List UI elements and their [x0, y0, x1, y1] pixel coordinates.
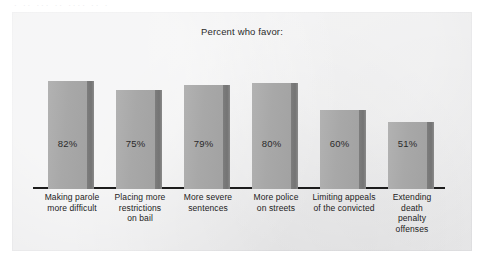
bar-shadow-edge — [427, 122, 434, 189]
bar-value-label: 51% — [388, 138, 427, 149]
bar[interactable]: 80% — [252, 83, 298, 189]
bar-value-label: 60% — [320, 138, 359, 149]
bar[interactable]: 75% — [116, 90, 162, 189]
category-label-line: more difficult — [36, 203, 108, 214]
bar-shadow-edge — [359, 110, 366, 189]
plot-area: 82%Making parolemore difficult75%Placing… — [12, 12, 472, 251]
chart-panel: Percent who favor: 82%Making parolemore … — [12, 12, 472, 251]
category-label: More policeon streets — [240, 192, 312, 213]
baseline-axis — [33, 187, 445, 189]
category-label-line: Extending — [376, 192, 448, 203]
category-label-line: Placing more — [104, 192, 176, 203]
bar-shadow-edge — [223, 85, 230, 189]
bar-face — [48, 81, 87, 189]
bar-shadow-edge — [87, 81, 94, 189]
bar[interactable]: 82% — [48, 81, 94, 189]
category-label-line: Limiting appeals — [308, 192, 380, 203]
category-label-line: More severe — [172, 192, 244, 203]
bar-face — [388, 122, 427, 189]
category-label: Extendingdeathpenaltyoffenses — [376, 192, 448, 234]
bar-value-label: 79% — [184, 138, 223, 149]
bar-face — [184, 85, 223, 189]
bar-face — [252, 83, 291, 189]
bar-shadow-edge — [291, 83, 298, 189]
category-label-line: penalty — [376, 213, 448, 224]
category-label: Placing morerestrictionson bail — [104, 192, 176, 224]
bar[interactable]: 79% — [184, 85, 230, 189]
bar-value-label: 82% — [48, 138, 87, 149]
category-label-line: on streets — [240, 203, 312, 214]
category-label-line: sentences — [172, 203, 244, 214]
category-label: Limiting appealsof the convicted — [308, 192, 380, 213]
bar-value-label: 75% — [116, 138, 155, 149]
bar-face — [320, 110, 359, 189]
scan-artifact-strip: · ·· ··· ·· ···· ·· · — [0, 0, 486, 12]
bar-shadow-edge — [155, 90, 162, 189]
category-label-line: More police — [240, 192, 312, 203]
category-label-line: offenses — [376, 224, 448, 235]
category-label-line: restrictions — [104, 203, 176, 214]
category-label-line: Making parole — [36, 192, 108, 203]
category-label: More severesentences — [172, 192, 244, 213]
category-label-line: on bail — [104, 213, 176, 224]
bar[interactable]: 51% — [388, 122, 434, 189]
category-label-line: death — [376, 203, 448, 214]
category-label: Making parolemore difficult — [36, 192, 108, 213]
category-label-line: of the convicted — [308, 203, 380, 214]
bar[interactable]: 60% — [320, 110, 366, 189]
bar-value-label: 80% — [252, 138, 291, 149]
